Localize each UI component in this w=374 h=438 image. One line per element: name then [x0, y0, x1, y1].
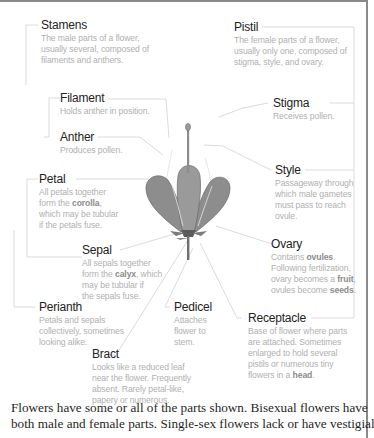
receptacle-title: Receptacle	[248, 311, 347, 325]
label-stigma: Stigma Receives pollen.	[273, 96, 334, 122]
calyx-term: calyx	[115, 269, 136, 279]
anther-desc: Produces pollen.	[60, 145, 122, 156]
label-pistil: Pistil The female parts of a flower, usu…	[234, 20, 347, 68]
label-ovary: Ovary Contains ovules. Following fertili…	[271, 237, 356, 296]
pedicel-title: Pedicel	[174, 300, 212, 314]
perianth-bracket-line	[14, 230, 35, 307]
label-petal: Petal All petals together form the corol…	[39, 172, 118, 231]
receptacle-desc: Base of flower where parts are attached.…	[248, 326, 347, 381]
filament-title: Filament	[60, 91, 150, 105]
ovary-desc: Contains ovules. Following fertilization…	[271, 252, 356, 296]
stamens-bracket-line	[26, 25, 38, 85]
ovary-title: Ovary	[271, 237, 356, 251]
sepal-title: Sepal	[82, 243, 162, 257]
label-sepal: Sepal All sepals together form the calyx…	[82, 243, 162, 302]
label-stamens: Stamens The male parts of a flower, usua…	[41, 18, 149, 66]
ovules-term: ovules	[306, 252, 333, 262]
filament-desc: Holds anther in position.	[60, 106, 150, 117]
label-anther: Anther Produces pollen.	[60, 130, 122, 156]
label-filament: Filament Holds anther in position.	[60, 91, 150, 117]
style-leader-line	[204, 145, 271, 170]
pistil-title: Pistil	[234, 20, 347, 34]
pedicel-desc: Attaches flower to stem.	[174, 315, 212, 348]
stamens-desc: The male parts of a flower, usually seve…	[41, 33, 149, 66]
flower-diagram: Stamens The male parts of a flower, usua…	[0, 0, 374, 438]
ovary-leader-line	[216, 226, 272, 244]
diagram-caption: Flowers have some or all of the parts sh…	[11, 400, 371, 432]
label-bract: Bract Looks like a reduced leaf near the…	[92, 347, 191, 406]
bract-title: Bract	[92, 347, 191, 361]
stigma-desc: Receives pollen.	[273, 111, 334, 122]
petal-title: Petal	[39, 172, 118, 186]
flower-illustration	[146, 123, 230, 260]
label-pedicel: Pedicel Attaches flower to stem.	[174, 300, 212, 348]
style-desc: Passageway through which male gametes mu…	[275, 178, 353, 222]
corolla-term: corolla	[72, 198, 99, 208]
filament-bracket-line	[44, 98, 60, 137]
seeds-term: seeds	[330, 285, 354, 295]
fruit-term: fruit	[337, 274, 353, 284]
petal-desc: All petals together form the corolla, wh…	[39, 187, 118, 231]
head-term: head	[293, 370, 313, 380]
sepal-desc: All sepals together form the calyx, whic…	[82, 258, 162, 302]
pistil-desc: The female parts of a flower, usually on…	[234, 35, 347, 68]
label-perianth: Perianth Petals and sepals collectively,…	[39, 300, 124, 348]
petal-bracket-line	[27, 179, 38, 220]
style-title: Style	[275, 163, 353, 177]
stigma-leader-line	[219, 103, 268, 117]
anther-title: Anther	[60, 130, 122, 144]
perianth-desc: Petals and sepals collectively, sometime…	[39, 315, 124, 348]
stamens-title: Stamens	[41, 18, 149, 32]
label-style: Style Passageway through which male game…	[275, 163, 353, 222]
stigma-title: Stigma	[273, 96, 334, 110]
perianth-title: Perianth	[39, 300, 124, 314]
label-receptacle: Receptacle Base of flower where parts ar…	[248, 311, 347, 381]
